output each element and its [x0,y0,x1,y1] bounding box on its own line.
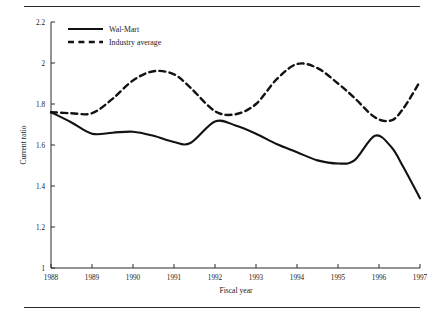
x-tick-label: 1997 [413,274,428,282]
legend: Wal-MartIndustry average [68,25,162,47]
legend-label: Industry average [109,38,162,47]
x-tick-label: 1989 [85,274,100,282]
x-tick-label: 1992 [208,274,223,282]
series-line-wal-mart [51,112,420,198]
legend-label: Wal-Mart [109,25,140,34]
y-tick-label: 1.4 [36,183,45,191]
x-tick-label: 1988 [44,274,59,282]
y-tick-label: 1.8 [36,101,45,109]
y-tick-label: 2.2 [36,19,45,27]
y-tick-label: 1.2 [36,224,45,232]
y-tick-label: 1 [41,265,45,273]
y-tick-label: 2 [41,60,45,68]
x-axis-title: Fiscal year [219,286,253,295]
x-tick-label: 1994 [290,274,305,282]
x-tick-label: 1990 [126,274,141,282]
y-axis-ticks: 11.21.41.61.822.2 [36,19,55,273]
y-tick-label: 1.6 [36,142,45,150]
y-axis-title: Current ratio [19,125,28,164]
line-chart: 11.21.41.61.822.2 1988198919901991199219… [0,0,444,319]
figure-container: 11.21.41.61.822.2 1988198919901991199219… [0,0,444,319]
x-tick-label: 1991 [167,274,182,282]
x-tick-label: 1995 [331,274,346,282]
x-axis-ticks: 1988198919901991199219931994199519961997 [44,264,428,282]
data-series-group [51,63,420,198]
x-tick-label: 1993 [249,274,264,282]
x-tick-label: 1996 [372,274,387,282]
series-line-industry-average [51,63,420,121]
